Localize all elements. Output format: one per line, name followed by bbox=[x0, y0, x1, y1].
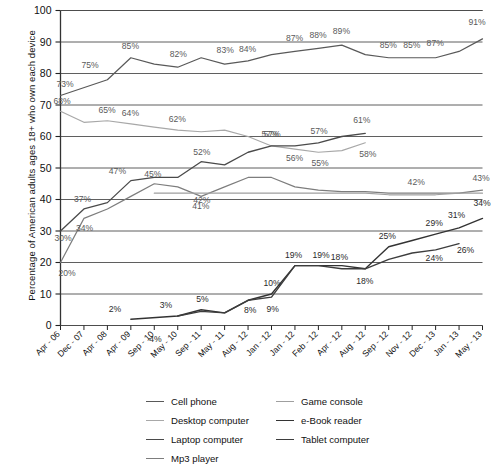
legend-label-cell-phone: Cell phone bbox=[171, 396, 217, 407]
data-point-label: 85% bbox=[403, 40, 421, 50]
data-point-label: 84% bbox=[239, 44, 257, 54]
data-point-label: 65% bbox=[98, 105, 116, 115]
legend-label-ebook-reader: e-Book reader bbox=[301, 415, 362, 426]
data-point-label: 52% bbox=[193, 147, 211, 157]
data-point-label: 34% bbox=[474, 198, 492, 208]
data-point-label: 10% bbox=[264, 278, 282, 288]
data-point-label: 55% bbox=[311, 158, 329, 168]
data-point-label: 83% bbox=[217, 45, 235, 55]
legend-swatch-mp3-player bbox=[146, 458, 164, 459]
data-point-label: 89% bbox=[333, 26, 351, 36]
x-tick-label: Dec - 07 bbox=[55, 329, 85, 359]
legend-item-game-console[interactable]: Game console bbox=[276, 392, 369, 411]
y-tick-label: 20 bbox=[40, 256, 52, 268]
data-point-label: 25% bbox=[379, 231, 397, 241]
series-line bbox=[61, 133, 366, 231]
legend-label-desktop-computer: Desktop computer bbox=[171, 415, 249, 426]
data-point-label: 30% bbox=[55, 233, 73, 243]
line-chart-plot: 0102030405060708090100Apr - 06Dec - 07Ap… bbox=[0, 0, 496, 392]
legend-item-mp3-player[interactable]: Mp3 player bbox=[146, 449, 249, 468]
y-tick-label: 70 bbox=[40, 99, 52, 111]
legend-column-left: Cell phone Desktop computer Laptop compu… bbox=[146, 392, 249, 468]
data-point-label: 62% bbox=[169, 114, 187, 124]
chart-root: Percentage of American adults ages 18+ w… bbox=[0, 0, 496, 470]
data-point-label: 18% bbox=[356, 276, 374, 286]
legend-item-cell-phone[interactable]: Cell phone bbox=[146, 392, 249, 411]
data-point-label: 2% bbox=[109, 304, 122, 314]
data-point-label: 85% bbox=[380, 40, 398, 50]
data-point-label: 26% bbox=[457, 245, 475, 255]
data-point-label: 47% bbox=[109, 166, 127, 176]
data-point-label: 57% bbox=[310, 126, 328, 136]
legend-label-game-console: Game console bbox=[301, 396, 363, 407]
y-tick-label: 0 bbox=[46, 319, 52, 331]
series-line bbox=[61, 177, 483, 262]
data-point-label: 8% bbox=[244, 305, 257, 315]
data-point-label: 56% bbox=[286, 153, 304, 163]
y-tick-label: 30 bbox=[40, 225, 52, 237]
data-point-label: 42% bbox=[408, 177, 426, 187]
legend-swatch-tablet-computer bbox=[276, 439, 294, 440]
legend-swatch-cell-phone bbox=[146, 401, 164, 402]
series-line bbox=[131, 218, 483, 319]
legend-item-laptop-computer[interactable]: Laptop computer bbox=[146, 430, 249, 449]
y-tick-label: 60 bbox=[40, 130, 52, 142]
data-point-label: 82% bbox=[170, 49, 188, 59]
data-point-label: 20% bbox=[59, 268, 77, 278]
legend-swatch-desktop-computer bbox=[146, 420, 164, 421]
data-point-label: 73% bbox=[57, 79, 75, 89]
data-point-label: 85% bbox=[122, 41, 140, 51]
x-tick-label: Apr - 08 bbox=[80, 329, 109, 358]
legend-label-tablet-computer: Tablet computer bbox=[301, 434, 369, 445]
data-point-label: 87% bbox=[286, 33, 304, 43]
legend-item-desktop-computer[interactable]: Desktop computer bbox=[146, 411, 249, 430]
y-tick-label: 100 bbox=[34, 4, 52, 16]
legend-item-ebook-reader[interactable]: e-Book reader bbox=[276, 411, 369, 430]
data-point-label: 29% bbox=[426, 218, 444, 228]
x-tick-label: Feb - 12 bbox=[290, 329, 320, 359]
data-point-label: 61% bbox=[353, 115, 371, 125]
legend-swatch-ebook-reader bbox=[276, 420, 294, 421]
data-point-label: 34% bbox=[76, 223, 94, 233]
data-point-label: 68% bbox=[54, 96, 72, 106]
data-point-label: 37% bbox=[74, 194, 92, 204]
y-tick-label: 80 bbox=[40, 67, 52, 79]
data-point-label: 64% bbox=[122, 108, 140, 118]
y-tick-label: 50 bbox=[40, 162, 52, 174]
data-point-label: 4% bbox=[149, 334, 162, 344]
y-tick-label: 90 bbox=[40, 36, 52, 48]
legend-swatch-laptop-computer bbox=[146, 439, 164, 440]
legend-label-mp3-player: Mp3 player bbox=[171, 453, 218, 464]
chart-legend: Cell phone Desktop computer Laptop compu… bbox=[0, 392, 496, 470]
data-point-label: 43% bbox=[473, 173, 491, 183]
data-point-label: 18% bbox=[331, 252, 349, 262]
x-tick-label: Aug - 12 bbox=[219, 329, 249, 359]
legend-label-laptop-computer: Laptop computer bbox=[171, 434, 243, 445]
data-point-label: 87% bbox=[427, 38, 445, 48]
data-point-label: 75% bbox=[81, 60, 99, 70]
legend-swatch-game-console bbox=[276, 401, 294, 402]
data-point-label: 58% bbox=[359, 149, 377, 159]
data-point-label: 19% bbox=[285, 250, 303, 260]
data-point-label: 3% bbox=[160, 300, 173, 310]
data-point-label: 91% bbox=[469, 17, 487, 27]
data-point-label: 42% bbox=[193, 195, 211, 205]
legend-item-tablet-computer[interactable]: Tablet computer bbox=[276, 430, 369, 449]
x-tick-label: Dec - 13 bbox=[407, 329, 437, 359]
data-point-label: 31% bbox=[448, 210, 466, 220]
data-point-label: 19% bbox=[312, 250, 330, 260]
data-point-label: 57% bbox=[264, 129, 282, 139]
data-point-label: 45% bbox=[144, 169, 162, 179]
data-point-label: 9% bbox=[267, 304, 280, 314]
data-point-label: 88% bbox=[309, 30, 327, 40]
y-tick-label: 10 bbox=[40, 288, 52, 300]
legend-column-right: Game console e-Book reader Tablet comput… bbox=[276, 392, 369, 449]
y-tick-label: 40 bbox=[40, 193, 52, 205]
data-point-label: 5% bbox=[196, 294, 209, 304]
data-point-label: 24% bbox=[426, 253, 444, 263]
